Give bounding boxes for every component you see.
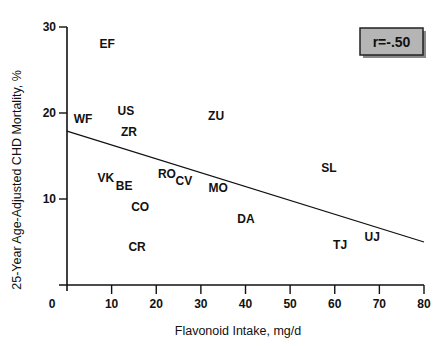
y-tick-label: 30 [43, 20, 57, 34]
y-axis-title: 25-Year Age-Adjusted CHD Mortality, % [10, 70, 24, 290]
x-tick-label: 70 [373, 297, 387, 311]
point-label-uj: UJ [365, 230, 380, 244]
x-tick-label: 60 [328, 297, 342, 311]
point-label-vk: VK [97, 171, 114, 185]
point-label-cr: CR [128, 240, 146, 254]
axes: 10203001020304050607080 [43, 20, 431, 311]
point-label-da: DA [237, 212, 255, 226]
correlation-value: r=-.50 [373, 34, 411, 50]
x-tick-label: 0 [49, 297, 56, 311]
point-label-co: CO [131, 200, 149, 214]
point-label-wf: WF [74, 112, 93, 126]
correlation-annotation: r=-.50 [360, 28, 426, 58]
x-tick-label: 40 [239, 297, 253, 311]
point-label-be: BE [116, 179, 133, 193]
scatter-chart: 10203001020304050607080 EFWFUSZRZUVKBECO… [0, 0, 441, 346]
point-label-zr: ZR [121, 125, 137, 139]
x-axis-title: Flavonoid Intake, mg/d [175, 324, 302, 338]
point-label-sl: SL [321, 161, 336, 175]
point-label-us: US [118, 104, 135, 118]
x-tick-label: 30 [194, 297, 208, 311]
data-point-labels: EFWFUSZRZUVKBECOCRROCVMODASLTJUJ [74, 37, 380, 254]
point-label-ef: EF [99, 37, 114, 51]
x-tick-label: 80 [417, 297, 431, 311]
y-tick-label: 20 [43, 106, 57, 120]
point-label-tj: TJ [333, 238, 347, 252]
point-label-cv: CV [176, 174, 193, 188]
x-tick-label: 10 [105, 297, 119, 311]
point-label-zu: ZU [208, 109, 224, 123]
x-tick-label: 50 [283, 297, 297, 311]
y-tick-label: 10 [43, 192, 57, 206]
point-label-mo: MO [209, 181, 228, 195]
point-label-ro: RO [158, 167, 176, 181]
x-tick-label: 20 [150, 297, 164, 311]
